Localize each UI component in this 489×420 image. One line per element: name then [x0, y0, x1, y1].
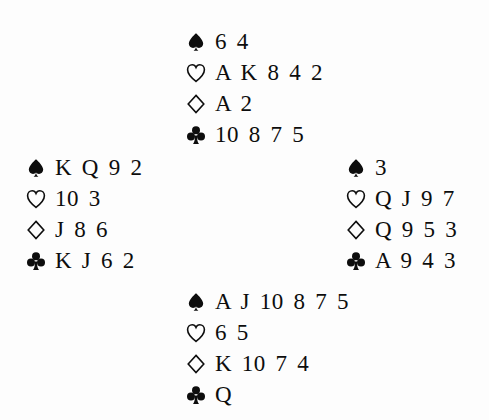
- club-icon: [26, 249, 49, 273]
- hand-north-club-row: 10 8 7 5: [186, 119, 323, 150]
- heart-icon: [346, 187, 369, 211]
- hand-north-club-cards: 10 8 7 5: [215, 123, 304, 146]
- hand-north-diamond-cards: A 2: [215, 92, 253, 115]
- hand-east-heart-cards: Q J 9 7: [375, 187, 455, 210]
- club-icon: [186, 123, 209, 147]
- hand-south-club-cards: Q: [215, 383, 232, 406]
- hand-south-club-row: Q: [186, 379, 349, 410]
- hand-west-heart-cards: 10 3: [55, 187, 101, 210]
- hand-south-heart-row: 6 5: [186, 317, 349, 348]
- diamond-icon: [186, 92, 209, 116]
- diamond-icon: [186, 352, 209, 376]
- hand-east-diamond-row: Q 9 5 3: [346, 214, 457, 245]
- hand-west-club-cards: K J 6 2: [55, 249, 135, 272]
- diamond-icon: [346, 218, 369, 242]
- bridge-deal-diagram: 6 4 A K 8 4 2 A 2: [0, 0, 489, 420]
- diamond-icon: [26, 218, 49, 242]
- hand-east-heart-row: Q J 9 7: [346, 183, 457, 214]
- hand-west-diamond-cards: J 8 6: [55, 218, 108, 241]
- heart-icon: [26, 187, 49, 211]
- heart-icon: [186, 321, 209, 345]
- hand-west-spade-row: K Q 9 2: [26, 152, 142, 183]
- hand-west: K Q 9 2 10 3 J 8 6: [26, 152, 142, 276]
- hand-north: 6 4 A K 8 4 2 A 2: [186, 26, 323, 150]
- spade-icon: [186, 30, 209, 54]
- hand-south-heart-cards: 6 5: [215, 321, 249, 344]
- club-icon: [186, 383, 209, 407]
- club-icon: [346, 249, 369, 273]
- hand-east-club-cards: A 9 4 3: [375, 249, 456, 272]
- hand-south-spade-row: A J 10 8 7 5: [186, 286, 349, 317]
- hand-east: 3 Q J 9 7 Q 9 5 3: [346, 152, 457, 276]
- hand-west-club-row: K J 6 2: [26, 245, 142, 276]
- hand-north-spade-row: 6 4: [186, 26, 323, 57]
- hand-south: A J 10 8 7 5 6 5 K 10 7 4: [186, 286, 349, 410]
- heart-icon: [186, 61, 209, 85]
- hand-east-spade-row: 3: [346, 152, 457, 183]
- hand-north-spade-cards: 6 4: [215, 30, 249, 53]
- hand-west-heart-row: 10 3: [26, 183, 142, 214]
- hand-east-club-row: A 9 4 3: [346, 245, 457, 276]
- hand-south-diamond-cards: K 10 7 4: [215, 352, 309, 375]
- hand-north-heart-row: A K 8 4 2: [186, 57, 323, 88]
- hand-north-heart-cards: A K 8 4 2: [215, 61, 323, 84]
- spade-icon: [26, 156, 49, 180]
- hand-south-diamond-row: K 10 7 4: [186, 348, 349, 379]
- spade-icon: [346, 156, 369, 180]
- spade-icon: [186, 290, 209, 314]
- hand-east-diamond-cards: Q 9 5 3: [375, 218, 457, 241]
- hand-north-diamond-row: A 2: [186, 88, 323, 119]
- hand-west-diamond-row: J 8 6: [26, 214, 142, 245]
- hand-west-spade-cards: K Q 9 2: [55, 156, 142, 179]
- hand-east-spade-cards: 3: [375, 156, 387, 179]
- hand-south-spade-cards: A J 10 8 7 5: [215, 290, 349, 313]
